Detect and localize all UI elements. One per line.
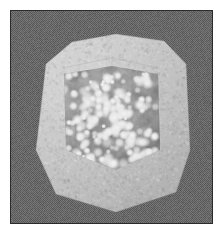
image-frame (10, 10, 213, 224)
volume-render-canvas (11, 11, 212, 223)
figure-root: Volume rendering of translucent polyhedr… (0, 0, 221, 235)
